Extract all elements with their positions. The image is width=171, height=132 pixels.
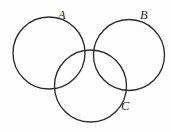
label-a: A: [57, 8, 66, 22]
three-circle-venn-diagram: A B C: [0, 0, 171, 132]
circle-b: [94, 20, 165, 91]
diagram-canvas: A B C: [0, 0, 171, 132]
label-c: C: [121, 99, 130, 113]
circle-c: [55, 50, 127, 122]
label-b: B: [140, 8, 148, 22]
circle-a: [13, 17, 85, 89]
